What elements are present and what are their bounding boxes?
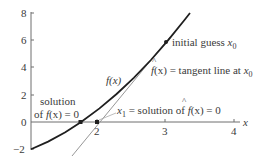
solution-label-line2: of f(x) = 0 (34, 108, 80, 121)
tick-y-0: 0 (21, 116, 27, 128)
x-axis-label: x (242, 116, 248, 128)
root-point (79, 120, 83, 124)
tick-x-4: 4 (231, 125, 237, 137)
x1-label: x1 = solution of f(x) = 0 (116, 104, 221, 119)
x0-point (164, 40, 168, 44)
tick-y-neg2: −2 (13, 143, 25, 155)
tick-x-3: 3 (162, 125, 168, 137)
tick-y-8: 8 (21, 7, 27, 19)
tick-x-2: 2 (94, 125, 100, 137)
initial-guess-label: initial guess x0 (172, 36, 237, 51)
tick-y-4: 4 (21, 61, 27, 73)
tick-y-6: 6 (21, 34, 27, 46)
solution-label-line1: solution (40, 95, 76, 107)
tick-y-2: 2 (21, 89, 27, 101)
curve-label: f(x) (106, 74, 122, 87)
tangent-label: f(x) = tangent line at x0 (151, 64, 253, 79)
x1-point (95, 120, 99, 124)
x1-pointer (99, 113, 116, 120)
newton-method-figure: 8 6 4 2 0 −2 2 3 4 x initial guess x0 f(… (0, 0, 265, 158)
axes (31, 12, 240, 150)
